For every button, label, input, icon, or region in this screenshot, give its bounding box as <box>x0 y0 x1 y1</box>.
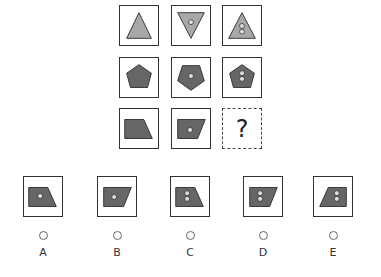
parallelogram-two-dots-shape <box>244 177 282 216</box>
option-b-radio[interactable] <box>113 231 122 240</box>
grid-cell-r2c2 <box>171 57 211 98</box>
grid-cell-r3c1 <box>119 108 159 149</box>
option-a-label: A <box>33 246 53 259</box>
pentagon-two-dots-shape <box>223 58 261 97</box>
grid-cell-r1c1 <box>119 5 159 46</box>
triangle-two-dots-shape <box>223 6 261 45</box>
option-d-radio[interactable] <box>259 231 268 240</box>
grid-cell-r2c1 <box>119 57 159 98</box>
trapezoid-one-dot-shape <box>24 177 62 216</box>
option-e-label: E <box>323 246 343 259</box>
pentagon-shape <box>120 58 158 97</box>
grid-cell-r1c2 <box>171 5 211 46</box>
grid-cell-r3c2 <box>171 108 211 149</box>
option-b-figure[interactable] <box>97 176 137 217</box>
inverted-triangle-shape <box>172 6 210 45</box>
triangle-shape <box>120 6 158 45</box>
parallelogram-shape <box>172 109 210 148</box>
option-e-radio[interactable] <box>329 231 338 240</box>
question-mark: ? <box>223 109 261 148</box>
option-c-label: C <box>180 246 200 259</box>
trapezoid-two-dots-shape <box>171 177 209 216</box>
grid-cell-r2c3 <box>222 57 262 98</box>
option-a-figure[interactable] <box>23 176 63 217</box>
option-b-label: B <box>107 246 127 259</box>
rotated-pentagon-shape <box>172 58 210 97</box>
parallelogram-one-dot-shape <box>98 177 136 216</box>
option-d-figure[interactable] <box>243 176 283 217</box>
grid-cell-r1c3 <box>222 5 262 46</box>
option-c-figure[interactable] <box>170 176 210 217</box>
left-trapezoid-two-dots-shape <box>314 177 352 216</box>
option-a-radio[interactable] <box>39 231 48 240</box>
option-e-figure[interactable] <box>313 176 353 217</box>
missing-cell: ? <box>222 108 262 149</box>
trapezoid-shape <box>120 109 158 148</box>
option-c-radio[interactable] <box>186 231 195 240</box>
option-d-label: D <box>253 246 273 259</box>
